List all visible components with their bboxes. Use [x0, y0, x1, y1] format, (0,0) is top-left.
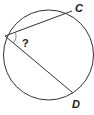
point-label-c: C [75, 2, 84, 14]
chord-to-c [5, 11, 72, 36]
angle-unknown-label: ? [22, 37, 29, 49]
angle-arc [13, 32, 16, 43]
chord-to-d [5, 36, 73, 93]
inscribed-angle-diagram: C D ? [0, 0, 94, 115]
circle [4, 10, 94, 100]
point-label-d: D [72, 98, 80, 110]
